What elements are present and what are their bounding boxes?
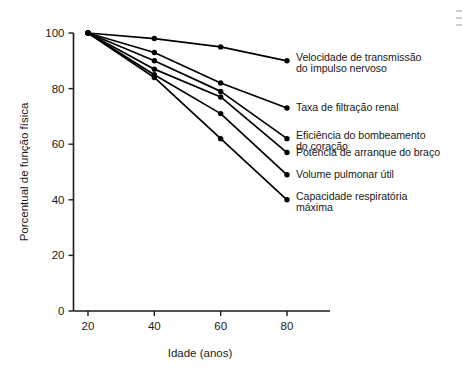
data-point-marker — [152, 50, 157, 55]
y-axis-ticks: 020406080100 — [45, 27, 73, 317]
data-point-marker — [152, 58, 157, 63]
y-tick-label: 60 — [52, 138, 65, 150]
data-point-marker — [284, 172, 289, 177]
series-label: Potência de arranque do braço — [296, 147, 440, 159]
figure-container: 020406080100 20406080 Idade (anos) Porce… — [0, 0, 462, 380]
x-tick-label: 60 — [214, 320, 227, 332]
x-tick-label: 20 — [82, 320, 95, 332]
data-point-marker — [218, 44, 223, 49]
data-point-marker — [85, 30, 90, 35]
y-axis-title: Porcentual de função física — [18, 102, 30, 241]
data-point-marker — [284, 105, 289, 110]
y-tick-label: 40 — [52, 194, 65, 206]
series-label: Capacidade respiratória máxima — [296, 191, 407, 214]
data-point-marker — [218, 111, 223, 116]
data-series — [85, 30, 289, 141]
data-point-marker — [152, 66, 157, 71]
page-edge-artifact — [456, 10, 462, 36]
data-series — [85, 30, 289, 155]
data-point-marker — [152, 36, 157, 41]
x-axis-ticks: 20406080 — [82, 311, 294, 332]
x-tick-label: 40 — [148, 320, 161, 332]
y-tick-label: 20 — [52, 249, 65, 261]
series-label: Velocidade de transmissão do impulso ner… — [296, 52, 421, 75]
data-point-marker — [152, 75, 157, 80]
x-axis-title: Idade (anos) — [168, 347, 233, 359]
data-point-marker — [284, 197, 289, 202]
y-tick-label: 0 — [58, 305, 64, 317]
data-point-marker — [284, 150, 289, 155]
data-point-marker — [218, 136, 223, 141]
data-point-marker — [218, 89, 223, 94]
data-point-marker — [284, 136, 289, 141]
data-point-marker — [218, 80, 223, 85]
series-layer — [85, 30, 289, 202]
series-label: Taxa de filtração renal — [296, 102, 399, 114]
series-line — [88, 33, 287, 108]
data-point-marker — [284, 58, 289, 63]
series-line — [88, 33, 287, 61]
data-series — [85, 30, 289, 202]
y-tick-label: 80 — [52, 83, 65, 95]
data-series — [85, 30, 289, 63]
x-tick-label: 80 — [281, 320, 294, 332]
data-point-marker — [218, 94, 223, 99]
y-tick-label: 100 — [45, 27, 64, 39]
series-label: Volume pulmonar útil — [296, 169, 394, 181]
